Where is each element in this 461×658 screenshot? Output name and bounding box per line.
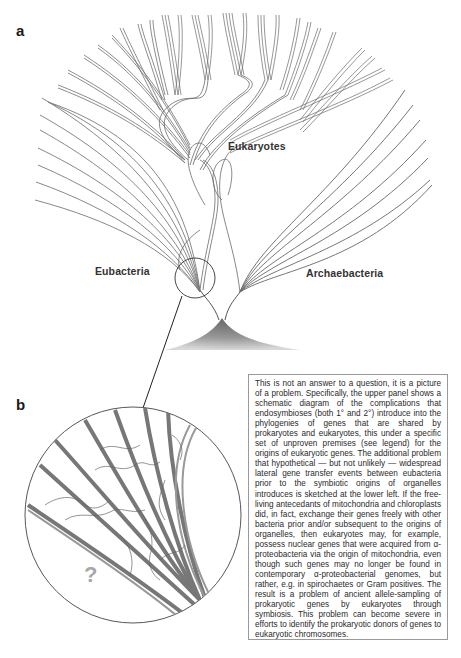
eukaryote-top-bundles [162, 13, 393, 153]
zoom-circle-large [25, 407, 241, 623]
legend-text: This is not an answer to a question, it … [255, 379, 441, 640]
panel-label-b: b [16, 396, 25, 413]
label-eubacteria: Eubacteria [95, 265, 150, 277]
label-archaebacteria: Archaebacteria [306, 267, 383, 279]
question-mark: ? [84, 562, 97, 588]
connector-line [143, 296, 182, 408]
panel-label-a: a [16, 22, 24, 39]
tree-root-base [165, 318, 300, 350]
label-eukaryotes: Eukaryotes [228, 140, 286, 152]
legend-text-box: This is not an answer to a question, it … [248, 374, 448, 640]
